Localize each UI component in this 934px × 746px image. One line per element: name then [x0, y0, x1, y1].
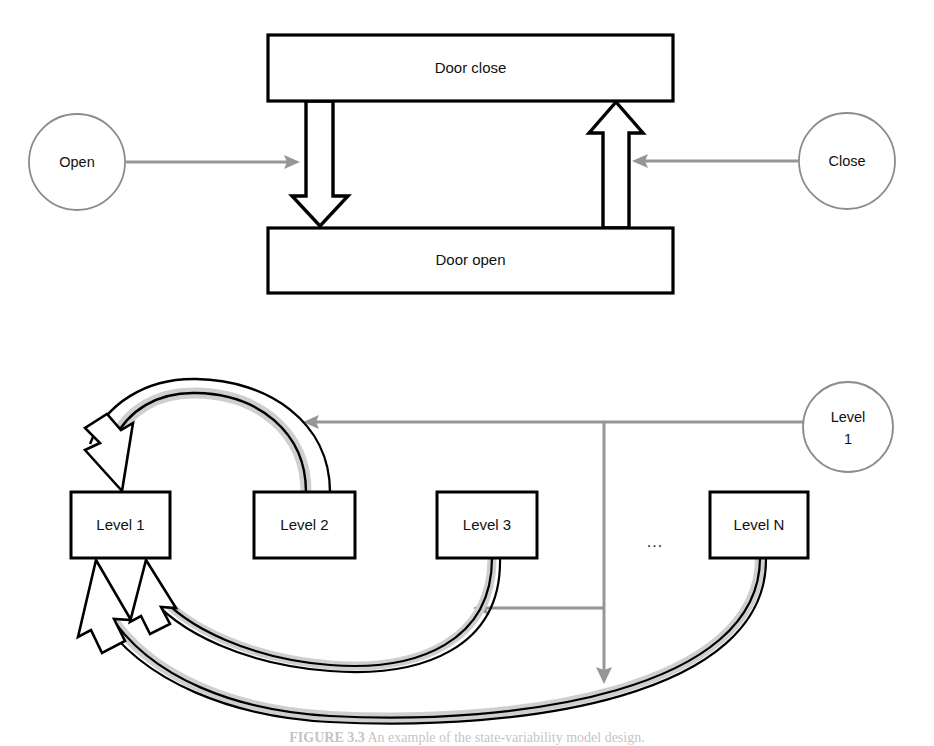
state-label-level-n-suffix: N	[774, 516, 785, 533]
event-label-level-1-line2: 1	[844, 431, 852, 447]
state-box-door-close: Door close	[268, 35, 673, 101]
event-node-close: Close	[799, 113, 895, 209]
state-label-level-3: Level 3	[463, 516, 511, 533]
state-label-level-n-prefix: Level	[734, 516, 774, 533]
figure-caption-text: An example of the state-variability mode…	[367, 730, 644, 745]
transition-level3-to-level1	[130, 558, 500, 672]
transition-leveln-to-level1	[78, 558, 766, 724]
level-state-diagram: Level 1 Level 2 Level 3 Level N ...	[71, 379, 893, 724]
door-state-diagram: Door close Door open Open Close	[29, 35, 895, 293]
event-label-level-1-line1: Level	[831, 409, 866, 425]
event-node-level-1: Level 1	[803, 382, 893, 472]
open-event-link	[126, 155, 300, 169]
state-label-level-n: Level N	[734, 516, 785, 533]
figure-root: Door close Door open Open Close	[0, 0, 934, 746]
figure-caption: FIGURE 3.3 An example of the state-varia…	[0, 729, 934, 746]
state-label-level-2: Level 2	[280, 516, 328, 533]
event-label-open: Open	[59, 154, 94, 170]
transition-level2-to-level1	[85, 379, 330, 492]
levels-ellipsis: ...	[647, 533, 663, 550]
event-node-open: Open	[29, 114, 125, 210]
figure-caption-number: FIGURE 3.3	[289, 730, 364, 745]
state-box-level-2: Level 2	[254, 492, 355, 558]
state-box-level-3: Level 3	[437, 492, 537, 558]
state-box-level-n: Level N	[710, 492, 808, 558]
state-label-door-open: Door open	[435, 251, 505, 268]
state-label-door-close: Door close	[435, 59, 507, 76]
transition-close-to-open	[292, 101, 348, 226]
figure-svg: Door close Door open Open Close	[0, 0, 934, 746]
state-label-level-1: Level 1	[96, 516, 144, 533]
state-box-door-open: Door open	[268, 228, 673, 293]
event-label-close: Close	[828, 153, 865, 169]
transition-open-to-close	[589, 102, 643, 228]
close-event-link	[632, 154, 798, 168]
state-box-level-1: Level 1	[71, 492, 170, 558]
